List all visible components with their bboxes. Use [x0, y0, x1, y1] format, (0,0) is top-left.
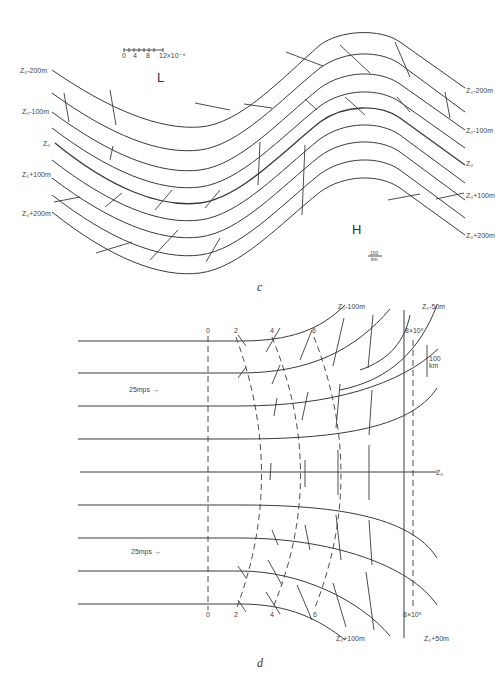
contour-bottom-100: Z₀+100m [336, 635, 365, 642]
isoline-top-4: 4 [270, 327, 274, 334]
vorticity-scale-bar: 0 4 8 12×10⁻⁶ [122, 48, 186, 59]
right-label-1: Z₀-100m [466, 127, 493, 134]
isoline-top-2: 2 [234, 327, 238, 334]
left-label-1: Z₀-100m [22, 108, 49, 115]
panel-c: 0 4 8 12×10⁻⁶ L H [20, 33, 495, 294]
contour-top-100: Z₀-100m [338, 303, 365, 310]
left-contour-labels: Z₀-200m Z₀-100m Z₀ Z₀+100m Z₀+200m [20, 67, 51, 217]
isoline-top-8: 8×10⁵ [405, 327, 424, 334]
isoline-bottom-6: 6 [313, 611, 317, 618]
left-label-3: Z₀+100m [22, 171, 51, 178]
isoline-bottom-0: 0 [206, 611, 210, 618]
low-pressure-label: L [157, 70, 164, 85]
distance-value-d: 100 [429, 355, 441, 362]
scale-tick-0: 0 [122, 52, 126, 59]
distance-scale-d: 100 km [427, 345, 441, 377]
wind-speed-label-bottom: 25mps → [131, 548, 161, 556]
caption-c: c [257, 280, 263, 294]
distance-unit-d: km [429, 362, 439, 369]
axis-label-z0: Z₀ [436, 469, 443, 476]
isoline-bottom-8: 8×10⁵ [403, 611, 422, 618]
height-contours [52, 33, 465, 274]
right-label-2: Z₀ [466, 160, 473, 167]
left-label-2: Z₀ [43, 140, 50, 147]
right-label-4: Z₀+200m [466, 232, 495, 239]
streamlines [78, 305, 438, 640]
distance-unit: km [371, 256, 378, 262]
isoline-bottom-2: 2 [234, 611, 238, 618]
left-label-0: Z₀-200m [20, 67, 47, 74]
distance-scale-c: 100 km [368, 250, 382, 262]
right-contour-labels: Z₀-200m Z₀-100m Z₀ Z₀+100m Z₀+200m [466, 87, 495, 239]
left-label-4: Z₀+200m [22, 210, 51, 217]
right-label-3: Z₀+100m [466, 192, 495, 199]
contour-top-50: Z₀-50m [422, 303, 445, 310]
right-label-0: Z₀-200m [466, 87, 493, 94]
caption-d: d [257, 656, 264, 670]
isoline-top-0: 0 [206, 327, 210, 334]
isoline-bottom-4: 4 [270, 611, 274, 618]
figure-canvas: 0 4 8 12×10⁻⁶ L H [0, 0, 504, 676]
high-pressure-label: H [352, 222, 361, 237]
wind-speed-label-top: 25mps → [129, 386, 159, 394]
scale-tick-4: 4 [133, 52, 137, 59]
scale-tick-8: 8 [146, 52, 150, 59]
scale-tick-12: 12×10⁻⁶ [159, 52, 186, 59]
contour-bottom-50: Z₀+50m [424, 635, 449, 642]
panel-d: 0 2 4 6 8×10⁵ Z₀-100m Z₀-50m [78, 303, 449, 670]
